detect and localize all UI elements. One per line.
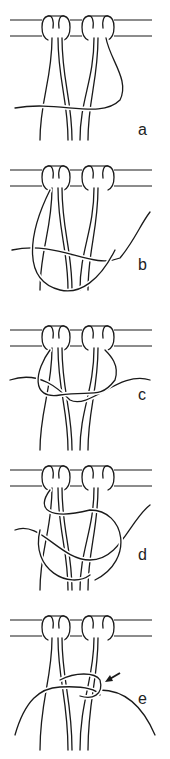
panel-b: b bbox=[10, 166, 152, 291]
panel-a: a bbox=[10, 16, 152, 140]
panel-label-a: a bbox=[138, 121, 147, 138]
panel-label-c: c bbox=[138, 386, 146, 403]
panel-d: d bbox=[10, 466, 152, 590]
panel-label-b: b bbox=[138, 256, 147, 273]
panel-label-d: d bbox=[138, 546, 147, 563]
panel-e: e bbox=[10, 616, 155, 750]
macrame-diagram: abcde bbox=[0, 0, 170, 759]
panel-label-e: e bbox=[138, 690, 147, 707]
panel-c: c bbox=[10, 326, 152, 450]
